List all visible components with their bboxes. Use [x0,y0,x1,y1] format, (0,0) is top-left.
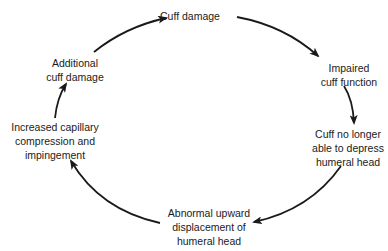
node-label-line: humeral head [168,234,250,248]
arrow-cuff-no-longer-to-abnormal [254,166,341,222]
node-label-line: compression and [11,134,99,148]
node-label-line: impingement [11,148,99,162]
node-label-line: Impaired [321,61,377,75]
node-label-line: able to depress [312,141,384,155]
arrow-increased-to-additional [55,84,66,118]
arrow-impaired-to-cuff-no-longer [344,86,354,123]
node-label-line: cuff function [321,75,377,89]
node-label-line: Increased capillary [11,120,99,134]
node-label-line: Abnormal upward [168,206,250,220]
node-impaired-cuff-function: Impaired cuff function [321,61,377,89]
node-additional-cuff-damage: Additional cuff damage [46,56,104,84]
node-label-line: displacement of [168,220,250,234]
node-increased-capillary-compression: Increased capillary compression and impi… [11,120,99,162]
arrow-additional-to-cuff-damage [94,18,166,52]
node-label-line: Additional [46,56,104,70]
node-abnormal-upward-displacement: Abnormal upward displacement of humeral … [168,206,250,248]
node-cuff-no-longer-able: Cuff no longer able to depress humeral h… [312,127,384,169]
arrow-cuff-damage-to-impaired [237,17,318,56]
node-label-line: humeral head [312,155,384,169]
node-label-line: cuff damage [46,70,104,84]
node-label-line: Cuff no longer [312,127,384,141]
arrow-abnormal-to-increased [71,161,160,223]
node-label-line: Cuff damage [160,9,220,23]
node-cuff-damage: Cuff damage [160,9,220,23]
